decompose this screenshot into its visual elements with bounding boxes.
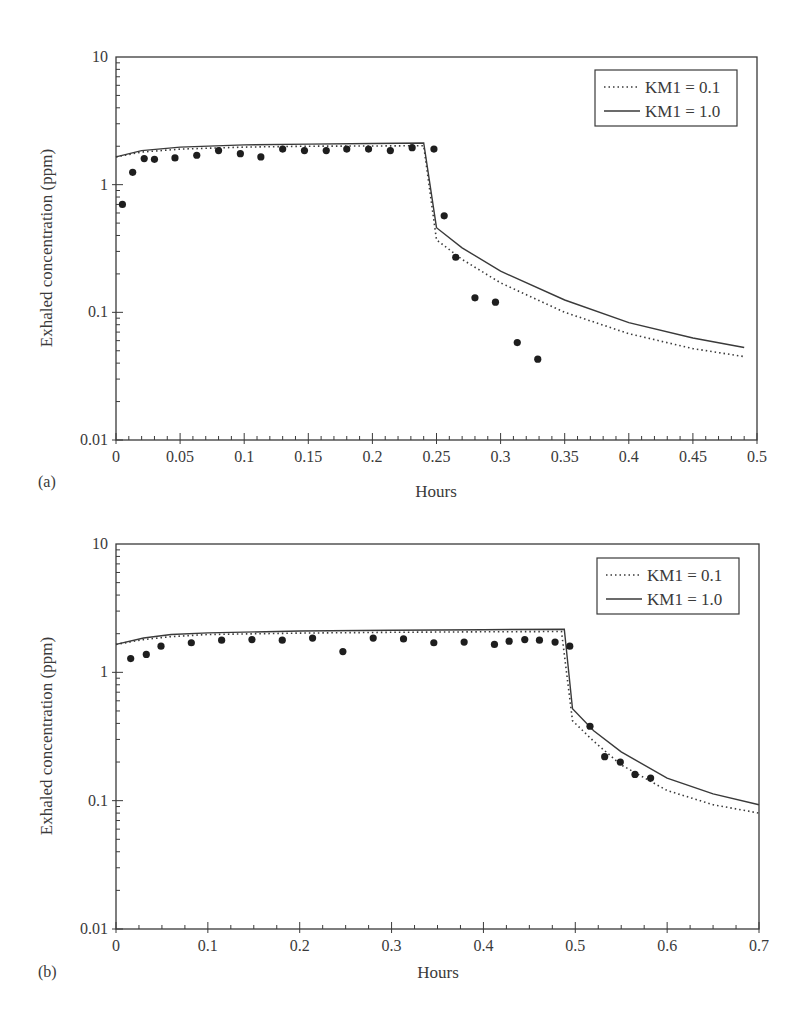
data-point (536, 637, 543, 644)
y-tick-label: 0.1 (88, 792, 108, 809)
data-point (521, 636, 528, 643)
data-point (400, 635, 407, 642)
data-point (370, 634, 377, 641)
data-point (339, 648, 346, 655)
data-point (365, 145, 372, 152)
data-point (461, 639, 468, 646)
x-tick-label: 0.5 (565, 937, 585, 954)
x-tick-label: 0.3 (382, 937, 402, 954)
x-tick-label: 0.3 (491, 448, 511, 465)
y-tick-label: 0.01 (80, 920, 108, 937)
series-line-km1-0.1 (116, 146, 744, 357)
x-tick-label: 0.05 (166, 448, 194, 465)
data-point (387, 147, 394, 154)
x-tick-label: 0.4 (619, 448, 639, 465)
x-tick-label: 0.45 (679, 448, 707, 465)
x-tick-label: 0.5 (747, 448, 767, 465)
data-point (323, 147, 330, 154)
data-point (218, 637, 225, 644)
legend-entry-km1-0.1: KM1 = 0.1 (647, 566, 722, 585)
series-line-km1-0.1 (116, 632, 759, 814)
data-point (279, 637, 286, 644)
legend-b: KM1 = 0.1 KM1 = 1.0 (597, 558, 739, 614)
series-line-km1-1.0 (116, 629, 759, 805)
data-point (127, 655, 134, 662)
data-point (647, 774, 654, 781)
data-point (248, 636, 255, 643)
y-tick-label: 1 (100, 663, 108, 680)
data-point (430, 639, 437, 646)
y-tick-label: 10 (92, 48, 108, 65)
series-line-km1-1.0 (116, 143, 744, 348)
x-tick-label: 0 (112, 448, 120, 465)
data-point (343, 145, 350, 152)
data-point (534, 356, 541, 363)
data-point (309, 634, 316, 641)
panel-label-b: (b) (38, 963, 57, 981)
legend-entry-km1-1.0: KM1 = 1.0 (645, 102, 720, 121)
y-axis-title-a: Exhaled concentration (ppm) (37, 149, 56, 347)
x-tick-label: 0.2 (290, 937, 310, 954)
chart-panel-a: 0.010.111000.050.10.150.20.250.30.350.40… (37, 48, 767, 501)
data-point (601, 753, 608, 760)
y-tick-label: 0.1 (88, 303, 108, 320)
data-point (257, 153, 264, 160)
data-point (171, 154, 178, 161)
data-point (409, 144, 416, 151)
data-point (129, 169, 136, 176)
legend-entry-km1-0.1: KM1 = 0.1 (645, 78, 720, 97)
chart-panel-b: 0.010.111000.10.20.30.40.50.60.7 Exhaled… (37, 535, 769, 982)
data-point (143, 651, 150, 658)
data-point (141, 155, 148, 162)
x-tick-label: 0.2 (362, 448, 382, 465)
x-tick-label: 0.4 (473, 937, 493, 954)
x-tick-label: 0 (112, 937, 120, 954)
data-point (215, 147, 222, 154)
data-point (452, 254, 459, 261)
x-tick-label: 0.35 (551, 448, 579, 465)
x-axis-title-b: Hours (417, 963, 459, 982)
data-point (151, 156, 158, 163)
legend-entry-km1-1.0: KM1 = 1.0 (647, 590, 722, 609)
x-tick-label: 0.25 (423, 448, 451, 465)
data-point (441, 212, 448, 219)
data-point (551, 639, 558, 646)
x-tick-label: 0.6 (657, 937, 677, 954)
data-point (188, 639, 195, 646)
x-tick-label: 0.1 (198, 937, 218, 954)
data-point (617, 758, 624, 765)
panel-label-a: (a) (38, 473, 56, 491)
data-point (279, 145, 286, 152)
data-point (237, 150, 244, 157)
data-point (193, 152, 200, 159)
data-point (492, 299, 499, 306)
x-tick-label: 0.7 (749, 937, 769, 954)
data-point (157, 643, 164, 650)
y-tick-label: 0.01 (80, 431, 108, 448)
data-point (430, 145, 437, 152)
x-tick-label: 0.15 (294, 448, 322, 465)
data-point (514, 339, 521, 346)
y-tick-label: 1 (100, 176, 108, 193)
data-point (491, 641, 498, 648)
data-point (631, 771, 638, 778)
data-point (506, 638, 513, 645)
x-tick-label: 0.1 (234, 448, 254, 465)
data-point (119, 201, 126, 208)
x-axis-title-a: Hours (415, 482, 457, 501)
legend-a: KM1 = 0.1 KM1 = 1.0 (595, 70, 737, 126)
data-point (566, 643, 573, 650)
data-point (301, 147, 308, 154)
data-point (586, 723, 593, 730)
y-tick-label: 10 (92, 535, 108, 552)
data-point (471, 294, 478, 301)
y-axis-title-b: Exhaled concentration (ppm) (37, 637, 56, 835)
figure: 0.010.111000.050.10.150.20.250.30.350.40… (0, 0, 807, 1030)
